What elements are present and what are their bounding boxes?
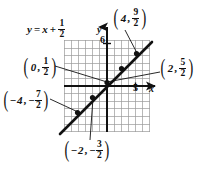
point-label-2-5-2: ( 2 , 5 2 )	[159, 58, 194, 78]
equation-plus: +	[48, 24, 58, 35]
x-axis-tick-label: 5	[133, 82, 138, 93]
point-label-4-9-2: ( 4 , 9 2 )	[112, 8, 147, 28]
label-y-fraction-0-1-2: 1 2	[42, 57, 50, 77]
graph-figure: y = x + 1 2 ( 4 , 9 2 ) (	[0, 0, 203, 174]
label-x-0-1-2: 0	[30, 62, 38, 73]
equation-fraction-denominator: 2	[58, 29, 65, 40]
label-y-numerator-2-5-2: 5	[179, 58, 186, 68]
label-y-denominator-4-9-2: 2	[132, 18, 139, 29]
equation-fraction-numerator: 1	[58, 19, 65, 29]
label-x-2-5-2: 2	[167, 63, 175, 74]
label-y-fraction-m2-m3-2: 3 2	[95, 140, 103, 160]
equation-fraction: 1 2	[58, 19, 66, 39]
label-y-denominator-0-1-2: 2	[42, 67, 49, 78]
label-y-denominator-2-5-2: 2	[179, 68, 186, 79]
paren-close-icon: )	[105, 142, 110, 159]
leader-m4-m7-2	[50, 99, 78, 112]
label-x-m2-m3-2: 2	[77, 145, 85, 156]
paren-open-icon: (	[23, 59, 28, 76]
equation-label: y = x + 1 2	[27, 19, 66, 39]
paren-open-icon: (	[3, 92, 8, 109]
point-0-1-2	[104, 80, 109, 85]
x-axis-label: x	[149, 83, 154, 94]
equation-equals: =	[32, 24, 42, 35]
y-axis-tick-label: 6	[100, 34, 105, 45]
label-y-numerator-m4-m7-2: 7	[35, 90, 42, 100]
point-2-5-2	[119, 66, 124, 71]
paren-close-icon: )	[44, 92, 49, 109]
label-x-m4-m7-2: 4	[16, 95, 24, 106]
label-y-fraction-2-5-2: 5 2	[179, 58, 187, 78]
paren-open-icon: (	[64, 142, 69, 159]
paren-open-icon: (	[160, 60, 165, 77]
paren-close-icon: )	[51, 59, 56, 76]
point-label-m2-m3-2: ( − 2 , − 3 2 )	[63, 140, 111, 160]
paren-open-icon: (	[113, 10, 118, 27]
leader-2-5-2	[107, 72, 160, 82]
label-y-numerator-4-9-2: 9	[132, 8, 139, 18]
label-y-fraction-m4-m7-2: 7 2	[34, 90, 42, 110]
paren-close-icon: )	[141, 10, 146, 27]
label-x-4-9-2: 4	[120, 13, 128, 24]
label-y-numerator-m2-m3-2: 3	[96, 140, 103, 150]
label-y-numerator-0-1-2: 1	[42, 57, 49, 67]
label-y-denominator-m4-m7-2: 2	[35, 100, 42, 111]
paren-close-icon: )	[188, 60, 193, 77]
label-y-fraction-4-9-2: 9 2	[132, 8, 140, 28]
point-label-0-1-2: ( 0 , 1 2 )	[22, 57, 57, 77]
point-label-m4-m7-2: ( − 4 , − 7 2 )	[2, 90, 50, 110]
label-y-denominator-m2-m3-2: 2	[96, 150, 103, 161]
